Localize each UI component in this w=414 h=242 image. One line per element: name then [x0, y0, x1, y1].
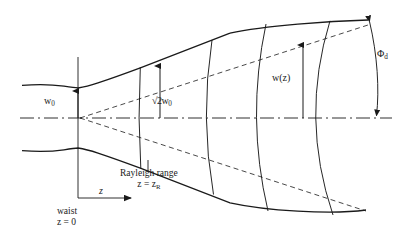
label-beam-radius-text: w(z)	[272, 72, 290, 83]
label-waist-line2: z = 0	[57, 217, 77, 227]
label-rayleigh-radius-text: √2w	[152, 95, 168, 106]
gaussian-beam-figure: w0 √2w0 w(z) Φd Rayleigh range z = zR wa…	[0, 0, 414, 242]
divergence-angle-arc	[370, 22, 378, 116]
label-divergence-angle: Φd	[377, 48, 388, 62]
label-waist-line1: waist	[57, 206, 77, 216]
label-z-axis-text: z	[99, 185, 103, 196]
label-rayleigh-range-line2: z = zR	[120, 179, 178, 190]
label-waist-radius-subscript: 0	[51, 100, 55, 108]
label-rayleigh-range-line1: Rayleigh range	[120, 168, 178, 178]
envelope-bottom	[22, 148, 366, 212]
label-divergence-angle-subscript: d	[384, 53, 388, 61]
label-rayleigh-radius: √2w0	[152, 95, 172, 109]
label-rayleigh-radius-subscript: 0	[168, 100, 172, 108]
label-beam-radius: w(z)	[272, 72, 290, 83]
asymptote-lower	[80, 118, 366, 211]
label-rayleigh-range-z-text: z = z	[137, 179, 156, 189]
label-waist-radius: w0	[44, 95, 55, 109]
label-rayleigh-range: Rayleigh range z = zR	[120, 168, 178, 190]
label-rayleigh-range-z-subscript: R	[156, 183, 161, 190]
wavefront-arc-2	[206, 40, 213, 195]
wavefront-arc-3	[256, 24, 268, 211]
label-waist: waist z = 0	[57, 206, 77, 228]
envelope-top	[22, 20, 368, 88]
label-z-axis: z	[99, 185, 103, 196]
